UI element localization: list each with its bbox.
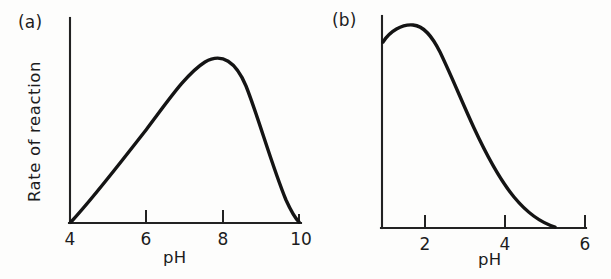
panel-a-plot: 4 6 8 10 <box>0 0 310 279</box>
panel-a-ticklabel-3: 10 <box>290 229 312 249</box>
panel-a-curve <box>71 58 299 222</box>
panel-b-ticklabel-2: 6 <box>580 234 591 254</box>
panel-b-ticklabel-0: 2 <box>420 234 431 254</box>
panel-a-ticklabel-0: 4 <box>65 229 76 249</box>
panel-a-ticklabel-2: 8 <box>218 229 229 249</box>
panel-b-ticklabel-1: 4 <box>500 234 511 254</box>
panel-b-curve <box>383 25 555 227</box>
panel-a-ticklabel-1: 6 <box>141 229 152 249</box>
panel-b-plot: 2 4 6 <box>310 0 611 279</box>
figure-container: (a) Rate of reaction pH 4 6 8 10 (b) pH <box>0 0 611 279</box>
chart-panel-a: (a) Rate of reaction pH 4 6 8 10 <box>0 0 310 279</box>
chart-panel-b: (b) pH 2 4 6 <box>310 0 611 279</box>
